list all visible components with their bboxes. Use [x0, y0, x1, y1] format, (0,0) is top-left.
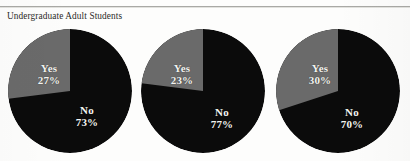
pie-1-label-yes: Yes 27%	[25, 63, 73, 86]
pie-3-no-text: No	[345, 106, 359, 118]
pie-1-yes-text: Yes	[41, 62, 58, 74]
pie-1-label-no: No 73%	[61, 105, 113, 128]
pie-2-yes-pct: 23%	[158, 75, 206, 87]
figure-caption: Undergraduate Adult Students	[7, 10, 122, 22]
pie-3-disc	[276, 29, 400, 153]
pie-3-yes-text: Yes	[312, 62, 329, 74]
pie-3-no-pct: 70%	[326, 119, 378, 131]
pie-2-yes-text: Yes	[174, 62, 191, 74]
pie-chart-1: Yes 27% No 73%	[8, 29, 132, 153]
pie-chart-3: Yes 30% No 70%	[276, 29, 400, 153]
pie-2-label-no: No 77%	[196, 107, 248, 130]
pie-1-yes-pct: 27%	[25, 75, 73, 87]
figure-panel: Undergraduate Adult Students Yes 27% No …	[0, 0, 410, 161]
pie-1-disc	[8, 29, 132, 153]
pie-3-label-no: No 70%	[326, 107, 378, 130]
pie-chart-row: Yes 27% No 73% Yes 23% No 77%	[0, 0, 410, 161]
pie-2-no-pct: 77%	[196, 119, 248, 131]
pie-2-label-yes: Yes 23%	[158, 63, 206, 86]
pie-3-yes-pct: 30%	[296, 75, 344, 87]
pie-1-no-pct: 73%	[61, 117, 113, 129]
pie-3-label-yes: Yes 30%	[296, 63, 344, 86]
pie-2-no-text: No	[215, 106, 229, 118]
pie-2-disc	[141, 29, 265, 153]
pie-chart-2: Yes 23% No 77%	[141, 29, 265, 153]
pie-1-no-text: No	[80, 104, 94, 116]
